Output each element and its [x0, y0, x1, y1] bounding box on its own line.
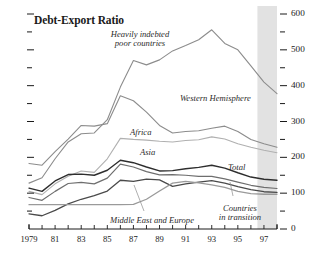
y-tick-100: 100 [291, 187, 305, 197]
chart-container: Debt-Export Ratio Heavily indebtedpoor c… [0, 0, 313, 259]
x-tick-1983: 83 [77, 234, 86, 244]
x-tick-1985: 85 [103, 234, 112, 244]
series-label-line: in transition [219, 213, 261, 222]
x-tick-1997: 97 [260, 234, 269, 244]
y-tick-0: 0 [291, 223, 296, 233]
series-label-3: Asia [140, 148, 155, 157]
series-label-line: Africa [130, 128, 151, 137]
x-tick-1979: 1979 [20, 234, 37, 244]
forecast-shading [257, 6, 277, 229]
series-label-line: poor countries [111, 39, 169, 48]
y-tick-600: 600 [291, 8, 305, 18]
y-tick-300: 300 [291, 116, 305, 126]
x-tick-1993: 93 [207, 234, 216, 244]
x-tick-1989: 89 [155, 234, 164, 244]
series-label-6: Countriesin transition [219, 204, 261, 223]
page-title: Debt-Export Ratio [34, 14, 124, 26]
series-line-0 [29, 30, 277, 183]
y-tick-200: 200 [291, 151, 305, 161]
plot-lines [29, 30, 277, 216]
x-tick-1987: 87 [129, 234, 138, 244]
forecast-shaded-band [257, 6, 277, 229]
annotation-leader-line [134, 185, 144, 211]
x-tick-1995: 95 [234, 234, 243, 244]
series-label-4: Total [228, 163, 245, 172]
series-label-line: Total [228, 163, 245, 172]
x-tick-1981: 81 [51, 234, 60, 244]
series-label-line: Middle East and Europe [110, 216, 194, 225]
series-label-line: Asia [140, 148, 155, 157]
series-label-1: Western Hemisphere [180, 94, 251, 103]
y-tick-400: 400 [291, 80, 305, 90]
x-tick-1991: 91 [181, 234, 190, 244]
y-tick-500: 500 [291, 44, 305, 54]
series-label-5: Middle East and Europe [110, 216, 194, 225]
series-label-2: Africa [130, 128, 151, 137]
series-label-0: Heavily indebtedpoor countries [111, 30, 169, 49]
series-label-line: Western Hemisphere [180, 94, 251, 103]
